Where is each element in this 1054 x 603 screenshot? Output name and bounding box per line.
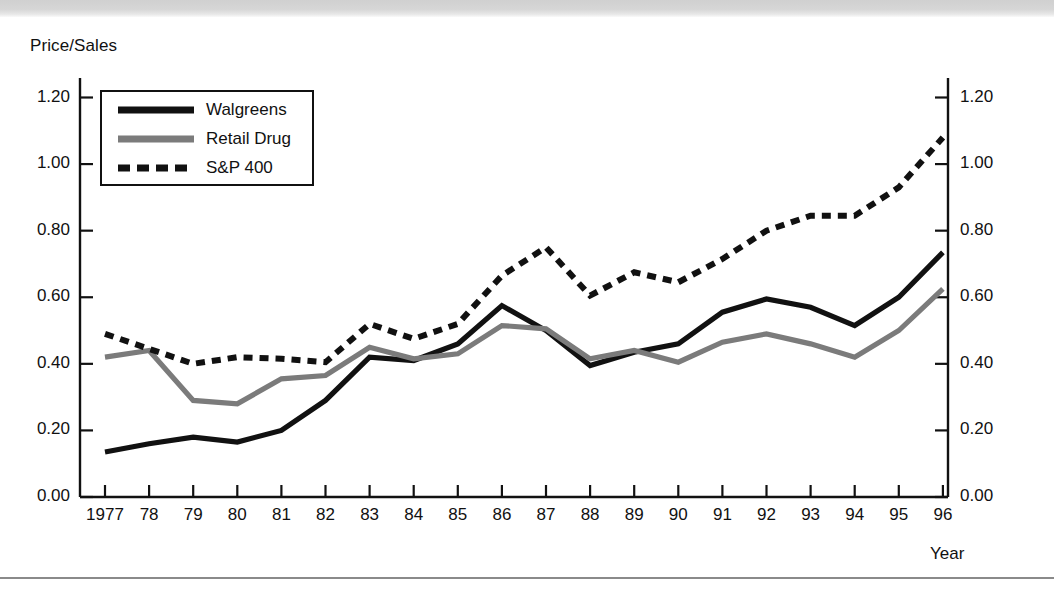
legend-swatch-solid-gray-icon: [118, 136, 194, 143]
y-tick-label-left: 0.20: [12, 419, 70, 439]
y-tick-label-left: 1.00: [12, 153, 70, 173]
y-tick-label-left: 1.20: [12, 87, 70, 107]
legend-entry-walgreens: Walgreens: [102, 96, 316, 124]
y-tick-label-right: 0.80: [960, 220, 1018, 240]
x-tick-marks: [105, 485, 943, 497]
legend-entry-retail-drug: Retail Drug: [102, 125, 316, 153]
legend-entry-sp400: S&P 400: [102, 154, 316, 182]
y-tick-marks-left: [80, 98, 93, 498]
footer-rule: [0, 577, 1054, 579]
x-tick-label: 96: [917, 505, 969, 525]
series-line-walgreens: [105, 252, 943, 452]
chart-legend: Walgreens Retail Drug S&P 400: [100, 90, 314, 186]
chart-figure: Price/Sales Year 0.000.200.400.600.801.0…: [0, 17, 1054, 577]
legend-swatch-dashed-icon: [118, 165, 194, 172]
y-tick-label-left: 0.60: [12, 286, 70, 306]
scan-header-band: [0, 0, 1054, 17]
legend-label-walgreens: Walgreens: [206, 100, 287, 120]
y-tick-label-right: 1.00: [960, 153, 1018, 173]
y-tick-label-right: 0.00: [960, 486, 1018, 506]
legend-swatch-solid-black-icon: [118, 107, 194, 114]
y-tick-label-left: 0.80: [12, 220, 70, 240]
y-tick-label-right: 0.20: [960, 419, 1018, 439]
series-line-retail-drug: [105, 289, 943, 404]
legend-label-sp400: S&P 400: [206, 158, 273, 178]
y-tick-label-right: 0.60: [960, 286, 1018, 306]
y-tick-label-left: 0.40: [12, 353, 70, 373]
y-tick-label-right: 1.20: [960, 87, 1018, 107]
y-tick-label-right: 0.40: [960, 353, 1018, 373]
legend-label-retail-drug: Retail Drug: [206, 129, 291, 149]
y-tick-label-left: 0.00: [12, 486, 70, 506]
